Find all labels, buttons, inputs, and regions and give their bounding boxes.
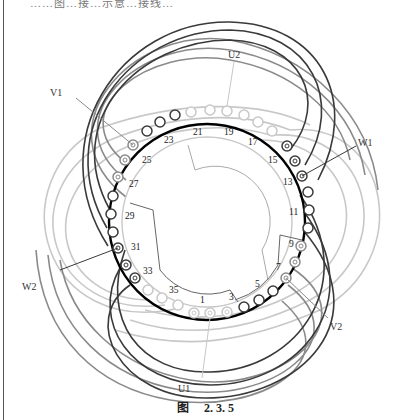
svg-text:5: 5 bbox=[255, 279, 260, 289]
svg-text:1: 1 bbox=[200, 295, 205, 305]
label-u1: U1 bbox=[178, 383, 190, 394]
svg-text:29: 29 bbox=[125, 211, 135, 221]
svg-text:3: 3 bbox=[229, 292, 234, 302]
caption-prefix: 图 bbox=[177, 401, 189, 415]
svg-text:21: 21 bbox=[193, 127, 203, 137]
svg-text:19: 19 bbox=[224, 127, 234, 137]
svg-text:11: 11 bbox=[289, 207, 298, 217]
label-w2: W2 bbox=[22, 281, 36, 292]
svg-text:9: 9 bbox=[289, 239, 294, 249]
svg-text:33: 33 bbox=[143, 266, 153, 276]
inner-jumper-u bbox=[188, 145, 270, 280]
svg-text:7: 7 bbox=[276, 262, 281, 272]
label-v1: V1 bbox=[50, 87, 62, 98]
svg-text:17: 17 bbox=[248, 137, 258, 147]
label-w1: W1 bbox=[358, 137, 372, 148]
svg-text:25: 25 bbox=[142, 155, 152, 165]
caption-number: 2. 3. 5 bbox=[204, 401, 234, 415]
svg-text:23: 23 bbox=[164, 135, 174, 145]
svg-text:13: 13 bbox=[283, 177, 293, 187]
figure-caption: 图 2. 3. 5 bbox=[0, 398, 411, 416]
slot-numbers: 1 3 5 7 9 11 13 15 17 19 21 23 25 27 29 … bbox=[125, 127, 298, 305]
svg-text:35: 35 bbox=[169, 285, 179, 295]
phase-v-coils bbox=[36, 39, 378, 403]
svg-text:31: 31 bbox=[131, 242, 141, 252]
svg-text:27: 27 bbox=[129, 179, 139, 189]
winding-diagram: U2 V1 W1 W2 V2 U1 1 3 5 7 9 11 13 15 17 … bbox=[0, 0, 411, 420]
label-v2: V2 bbox=[330, 321, 342, 332]
svg-text:15: 15 bbox=[268, 155, 278, 165]
label-u2: U2 bbox=[228, 49, 240, 60]
